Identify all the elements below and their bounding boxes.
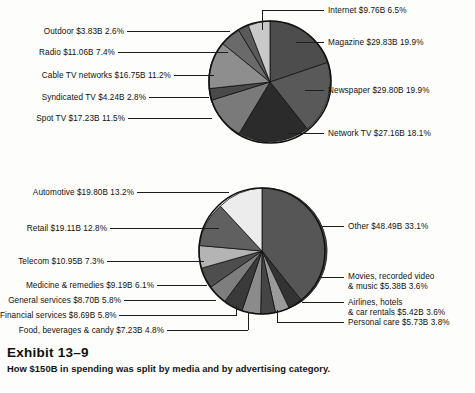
exhibit-title: Exhibit 13–9 — [7, 345, 437, 360]
leader-spot-tv — [128, 118, 212, 119]
leader-personal-drop — [277, 310, 278, 322]
label-airlines-line1: Airlines, hotels — [348, 298, 403, 308]
leader-financial — [119, 315, 236, 316]
label-network-tv: Network TV $27.16B 18.1% — [328, 129, 431, 139]
leader-syndicated-tv — [149, 97, 209, 98]
leader-food — [167, 330, 248, 331]
leader-automotive — [137, 192, 229, 193]
exhibit-description: How $150B in spending was split by media… — [7, 363, 437, 374]
label-telecom: Telecom $10.95B 7.3% — [0, 257, 104, 267]
leader-internet-vertical — [262, 10, 263, 30]
leader-food-drop — [248, 312, 249, 330]
exhibit-figure: Internet $9.76B 6.5% Magazine $29.83B 19… — [0, 0, 475, 393]
leader-financial-drop — [236, 306, 237, 316]
leader-network-tv — [288, 133, 324, 134]
label-spot-tv: Spot TV $17.23B 11.5% — [0, 114, 125, 124]
label-newspaper: Newspaper $29.80B 19.9% — [328, 86, 430, 96]
leader-outdoor — [127, 31, 230, 32]
leader-general-services — [124, 300, 216, 301]
leader-newspaper — [305, 90, 324, 91]
leader-other — [322, 226, 344, 227]
label-retail: Retail $19.11B 12.8% — [0, 224, 107, 234]
label-movies-line1: Movies, recorded video — [348, 272, 434, 282]
leader-airlines — [302, 302, 344, 303]
label-radio: Radio $11.06B 7.4% — [0, 48, 115, 58]
leader-cable-tv — [174, 75, 214, 76]
label-internet: Internet $9.76B 6.5% — [328, 6, 407, 16]
label-syndicated-tv: Syndicated TV $4.24B 2.8% — [0, 93, 146, 103]
leader-telecom — [107, 261, 204, 262]
label-automotive: Automotive $19.80B 13.2% — [0, 188, 134, 198]
label-other: Other $48.49B 33.1% — [348, 222, 428, 232]
leader-movies — [320, 277, 344, 278]
label-general-services: General services $8.70B 5.8% — [0, 296, 121, 306]
label-medicine: Medicine & remedies $9.19B 6.1% — [0, 281, 154, 291]
leader-magazine — [296, 42, 324, 43]
label-food: Food, beverages & candy $7.23B 4.8% — [0, 326, 164, 336]
label-cable-tv: Cable TV networks $16.75B 11.2% — [0, 71, 171, 81]
leader-personal-care — [277, 322, 344, 323]
label-personal-care: Personal care $5.73B 3.8% — [348, 318, 450, 328]
leader-radio — [118, 52, 228, 53]
label-outdoor: Outdoor $3.83B 2.6% — [0, 27, 124, 37]
caption-block: Exhibit 13–9 How $150B in spending was s… — [7, 345, 437, 374]
label-financial: Financial services $8.69B 5.8% — [0, 311, 116, 321]
leader-retail — [110, 228, 219, 229]
leader-medicine — [157, 285, 207, 286]
label-airlines-line2: & car rentals $5.42B 3.6% — [348, 308, 445, 318]
leader-internet-horizontal — [262, 10, 324, 11]
label-magazine: Magazine $29.83B 19.9% — [328, 38, 424, 48]
media-pie-chart — [206, 18, 334, 146]
label-movies-line2: & music $5.38B 3.6% — [348, 282, 428, 292]
category-pie-chart — [196, 185, 328, 317]
